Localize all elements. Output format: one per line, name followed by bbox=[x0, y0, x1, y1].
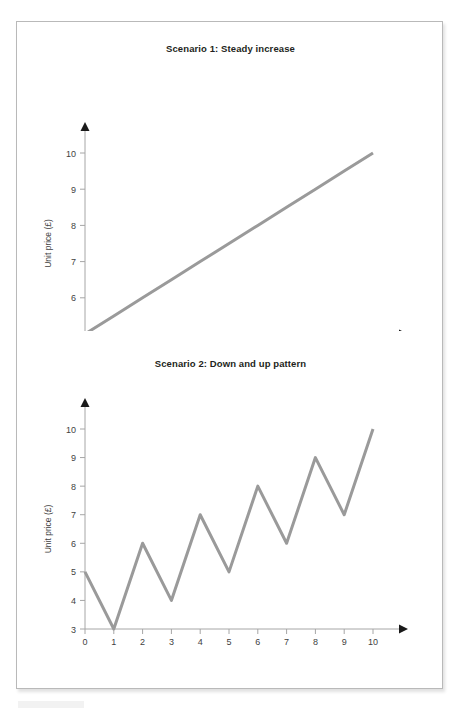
y-tick-label: 7 bbox=[71, 510, 76, 520]
y-tick-label: 7 bbox=[71, 257, 76, 267]
figure-scenario-2: Scenario 2: Down and up pattern 01234567… bbox=[17, 357, 444, 669]
x-tick-label: 2 bbox=[140, 637, 145, 647]
x-tick-label: 9 bbox=[342, 637, 347, 647]
chart-title-scenario-2: Scenario 2: Down and up pattern bbox=[17, 357, 444, 371]
y-tick-label: 5 bbox=[71, 567, 76, 577]
x-tick-label: 5 bbox=[226, 637, 231, 647]
x-tick-label: 3 bbox=[169, 637, 174, 647]
chart-svg-scenario-2: 012345678910345678910YearUnit price (£) bbox=[17, 371, 444, 653]
x-tick-label: 8 bbox=[313, 637, 318, 647]
y-tick-label: 10 bbox=[66, 149, 76, 159]
x-tick-label: 0 bbox=[82, 637, 87, 647]
chart-title-scenario-1: Scenario 1: Steady increase bbox=[17, 42, 444, 56]
y-tick-label: 6 bbox=[71, 539, 76, 549]
page-edge-artifact bbox=[18, 701, 84, 708]
x-tick-label: 10 bbox=[368, 637, 378, 647]
figure-scenario-1: Scenario 1: Steady increase 012345678910… bbox=[17, 42, 444, 352]
y-axis-arrow-icon bbox=[81, 398, 90, 407]
y-axis-arrow-icon bbox=[81, 122, 90, 131]
y-tick-label: 9 bbox=[71, 453, 76, 463]
x-axis-arrow-icon bbox=[399, 330, 408, 332]
y-tick-label: 8 bbox=[71, 482, 76, 492]
data-series-line bbox=[85, 429, 373, 629]
y-tick-label: 6 bbox=[71, 293, 76, 303]
x-axis-arrow-icon bbox=[399, 625, 408, 634]
y-tick-label: 3 bbox=[71, 625, 76, 635]
y-tick-label: 8 bbox=[71, 221, 76, 231]
y-axis-title: Unit price (£) bbox=[43, 219, 53, 268]
x-tick-label: 6 bbox=[255, 637, 260, 647]
x-tick-label: 7 bbox=[284, 637, 289, 647]
plot-area-scenario-2: 012345678910345678910YearUnit price (£) bbox=[17, 371, 444, 653]
y-tick-label: 4 bbox=[71, 596, 76, 606]
page-frame: Scenario 1: Steady increase 012345678910… bbox=[16, 21, 443, 689]
data-series-line bbox=[85, 153, 373, 331]
x-tick-label: 1 bbox=[111, 637, 116, 647]
plot-area-scenario-1: 0123456789105678910YearUnit price (£) bbox=[17, 56, 444, 331]
y-axis-title: Unit price (£) bbox=[43, 505, 53, 554]
chart-svg-scenario-1: 0123456789105678910YearUnit price (£) bbox=[17, 56, 444, 331]
y-tick-label: 10 bbox=[66, 425, 76, 435]
y-tick-label: 5 bbox=[71, 330, 76, 332]
y-tick-label: 9 bbox=[71, 185, 76, 195]
x-tick-label: 4 bbox=[198, 637, 203, 647]
